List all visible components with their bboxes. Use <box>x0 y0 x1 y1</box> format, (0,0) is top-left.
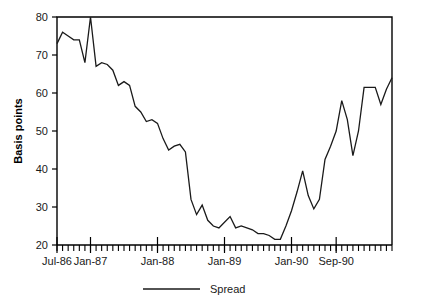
x-tick-label: Sep-90 <box>318 255 353 267</box>
y-tick-label: 70 <box>36 49 48 61</box>
plot-frame <box>57 17 392 245</box>
x-tick-label: Jan-88 <box>141 255 175 267</box>
legend: Spread <box>143 283 245 295</box>
legend-label-spread: Spread <box>210 283 245 295</box>
x-tick-label: Jan-87 <box>74 255 108 267</box>
y-tick-label: 20 <box>36 239 48 251</box>
y-tick-label: 50 <box>36 125 48 137</box>
y-tick-label: 30 <box>36 201 48 213</box>
x-tick-label: Jan-89 <box>208 255 242 267</box>
line-chart: 20304050607080 Jul-86Jan-87Jan-88Jan-89J… <box>0 0 427 306</box>
y-tick-label: 80 <box>36 11 48 23</box>
y-tick-label: 40 <box>36 163 48 175</box>
y-axis-ticks <box>52 17 57 245</box>
x-axis-tick-labels: Jul-86Jan-87Jan-88Jan-89Jan-90Sep-90 <box>42 255 354 267</box>
y-tick-label: 60 <box>36 87 48 99</box>
x-tick-label: Jan-90 <box>275 255 309 267</box>
x-tick-label: Jul-86 <box>42 255 72 267</box>
series-line-spread <box>57 17 392 239</box>
y-axis-title: Basis points <box>12 98 24 163</box>
chart-figure: 20304050607080 Jul-86Jan-87Jan-88Jan-89J… <box>0 0 427 306</box>
y-axis-tick-labels: 20304050607080 <box>36 11 48 251</box>
